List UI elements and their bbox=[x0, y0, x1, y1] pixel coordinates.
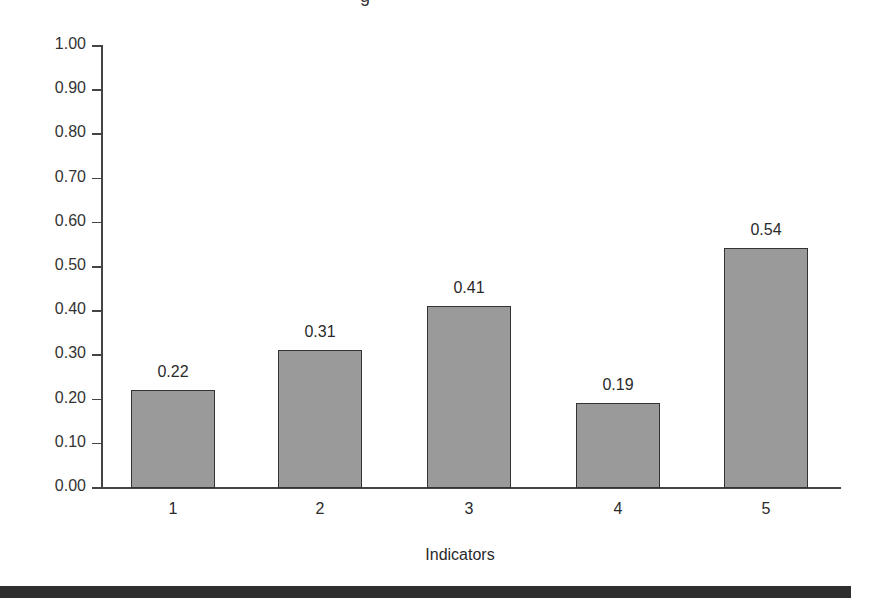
bar-chart: g 0.000.100.200.300.400.500.600.700.800.… bbox=[0, 0, 878, 603]
x-tick-label: 3 bbox=[427, 500, 511, 518]
y-tick-mark bbox=[92, 443, 102, 445]
y-tick-label: 0.40 bbox=[26, 300, 86, 318]
y-tick-mark bbox=[92, 133, 102, 135]
y-tick-label: 0.80 bbox=[26, 123, 86, 141]
bar-5 bbox=[724, 248, 808, 488]
y-tick-mark bbox=[92, 222, 102, 224]
bar-value-label: 0.41 bbox=[427, 279, 511, 297]
y-tick-label: 0.60 bbox=[26, 212, 86, 230]
y-tick-mark bbox=[92, 310, 102, 312]
bar-1 bbox=[131, 390, 215, 488]
bar-3 bbox=[427, 306, 511, 488]
bar-4 bbox=[576, 403, 660, 488]
bar-2 bbox=[278, 350, 362, 488]
bottom-rule-divider bbox=[0, 586, 851, 598]
y-tick-label: 0.90 bbox=[26, 79, 86, 97]
y-tick-label: 0.50 bbox=[26, 256, 86, 274]
y-tick-label: 0.20 bbox=[26, 389, 86, 407]
bar-value-label: 0.19 bbox=[576, 376, 660, 394]
y-tick-label: 0.70 bbox=[26, 168, 86, 186]
x-tick-label: 5 bbox=[724, 500, 808, 518]
y-tick-mark bbox=[92, 89, 102, 91]
y-tick-mark bbox=[92, 45, 102, 47]
bar-value-label: 0.22 bbox=[131, 363, 215, 381]
chart-title-fragment: g bbox=[360, 0, 370, 7]
y-tick-label: 1.00 bbox=[26, 35, 86, 53]
y-tick-mark bbox=[92, 354, 102, 356]
x-tick-label: 1 bbox=[131, 500, 215, 518]
y-tick-mark bbox=[92, 266, 102, 268]
x-tick-label: 2 bbox=[278, 500, 362, 518]
y-tick-label: 0.30 bbox=[26, 344, 86, 362]
y-tick-mark bbox=[92, 487, 102, 489]
y-tick-label: 0.10 bbox=[26, 433, 86, 451]
y-tick-label: 0.00 bbox=[26, 477, 86, 495]
bar-value-label: 0.31 bbox=[278, 323, 362, 341]
x-axis-title: Indicators bbox=[380, 546, 540, 564]
x-tick-label: 4 bbox=[576, 500, 660, 518]
y-tick-mark bbox=[92, 399, 102, 401]
y-tick-mark bbox=[92, 178, 102, 180]
bar-value-label: 0.54 bbox=[724, 221, 808, 239]
